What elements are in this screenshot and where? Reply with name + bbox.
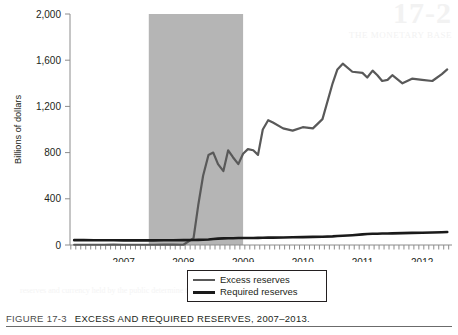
y-axis-tick-label: 1,600 bbox=[36, 55, 61, 66]
x-axis-tick-label: 2011 bbox=[352, 257, 374, 262]
figure-caption: FIGURE 17-3 EXCESS AND REQUIRED RESERVES… bbox=[0, 313, 458, 326]
y-axis-tick-label: 800 bbox=[44, 147, 61, 158]
x-axis-tick-label: 2012 bbox=[411, 257, 434, 262]
y-axis-title: Billions of dollars bbox=[13, 95, 23, 164]
y-axis-tick-label: 0 bbox=[55, 240, 61, 251]
legend-label-required: Required reserves bbox=[220, 286, 298, 298]
x-axis-tick-label: 2009 bbox=[232, 257, 255, 262]
legend-swatch-required-icon bbox=[193, 291, 215, 294]
figure-caption-block: FIGURE 17-3 EXCESS AND REQUIRED RESERVES… bbox=[0, 313, 458, 327]
y-axis-tick-label: 1,200 bbox=[36, 101, 61, 112]
x-axis-tick-label: 2010 bbox=[292, 257, 315, 262]
reserves-line-chart: 04008001,2001,6002,000Billions of dollar… bbox=[0, 0, 458, 262]
x-axis-tick-label: 2007 bbox=[113, 257, 136, 262]
figure-title: EXCESS AND REQUIRED RESERVES, 2007–2013. bbox=[75, 313, 310, 324]
figure-17-3: 17-2 THE MONETARY BASE reserves and curr… bbox=[0, 0, 458, 335]
series-line-required-reserves bbox=[74, 232, 447, 240]
caption-rule-divider bbox=[6, 326, 452, 327]
chart-legend: Excess reserves Required reserves bbox=[187, 270, 327, 302]
figure-number: FIGURE 17-3 bbox=[6, 313, 67, 324]
legend-swatch-excess-icon bbox=[193, 279, 215, 281]
legend-item-excess-reserves: Excess reserves bbox=[193, 274, 321, 286]
y-axis-tick-label: 2,000 bbox=[36, 9, 61, 20]
x-axis-tick-label: 2008 bbox=[172, 257, 195, 262]
chart-plot-area: 04008001,2001,6002,000Billions of dollar… bbox=[0, 0, 458, 262]
recession-shading-recession bbox=[149, 14, 243, 245]
legend-item-required-reserves: Required reserves bbox=[193, 286, 321, 298]
y-axis-tick-label: 400 bbox=[44, 193, 61, 204]
legend-label-excess: Excess reserves bbox=[220, 274, 290, 286]
series-line-excess-reserves bbox=[74, 64, 447, 245]
